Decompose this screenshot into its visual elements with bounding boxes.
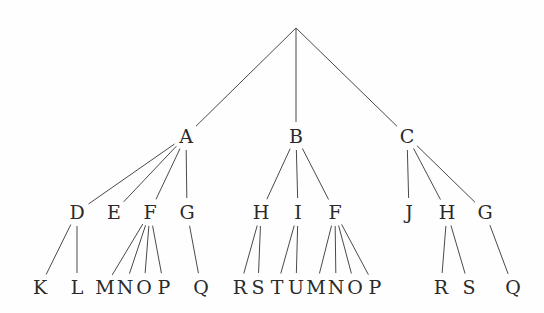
tree-node-q: Q	[193, 278, 209, 297]
tree-node-u: U	[288, 278, 304, 297]
tree-edge	[145, 226, 149, 273]
tree-node-o: O	[347, 278, 363, 297]
tree-node-j: J	[405, 203, 413, 222]
tree-node-r: R	[233, 278, 247, 297]
tree-edge	[296, 226, 297, 273]
tree-edge	[296, 28, 397, 126]
tree-edge	[339, 226, 352, 274]
tree-node-q: Q	[505, 278, 521, 297]
tree-edge	[335, 226, 336, 273]
tree-edge	[296, 150, 297, 198]
tree-edges	[0, 0, 544, 313]
tree-edge	[267, 149, 290, 200]
tree-edge	[417, 146, 475, 202]
tree-node-g: G	[179, 203, 194, 222]
tree-node-c: C	[400, 127, 415, 146]
tree-edge	[196, 28, 296, 126]
tree-node-p: P	[369, 278, 382, 297]
tree-node-o: O	[136, 278, 152, 297]
tree-edge	[46, 225, 71, 275]
tree-node-i: I	[294, 203, 302, 222]
tree-node-m: M	[95, 278, 114, 297]
tree-node-n: N	[117, 278, 134, 297]
tree-edge	[112, 224, 143, 275]
tree-node-r: R	[434, 278, 448, 297]
tree-diagram: ABCDEFGHIFJHGKLMNOPQRSTUMNOPRSQ	[0, 0, 544, 313]
tree-node-t: T	[271, 278, 284, 297]
tree-edge	[244, 225, 257, 273]
tree-edge	[342, 224, 369, 274]
tree-edge	[302, 148, 328, 199]
tree-edge	[407, 150, 408, 198]
tree-node-h: H	[253, 203, 270, 222]
tree-edge	[319, 226, 331, 274]
tree-node-n: N	[328, 278, 345, 297]
tree-edge	[186, 150, 187, 198]
tree-node-h: H	[439, 203, 456, 222]
tree-edge	[156, 149, 180, 200]
tree-edge	[451, 225, 465, 273]
tree-node-s: S	[462, 278, 475, 297]
tree-node-m: M	[306, 278, 325, 297]
tree-edge	[281, 225, 294, 273]
tree-node-f: F	[143, 203, 156, 222]
tree-node-l: L	[71, 278, 84, 297]
tree-node-k: K	[33, 278, 47, 297]
tree-node-s: S	[251, 278, 264, 297]
tree-node-a: A	[179, 127, 193, 146]
tree-node-g: G	[477, 203, 492, 222]
tree-node-e: E	[107, 203, 121, 222]
tree-node-d: D	[69, 203, 84, 222]
tree-node-b: B	[289, 127, 303, 146]
tree-edge	[153, 226, 162, 273]
tree-edge	[190, 226, 199, 273]
tree-node-f: F	[328, 203, 341, 222]
tree-edge	[259, 226, 261, 273]
tree-edge	[442, 226, 446, 273]
tree-edge	[490, 225, 508, 274]
tree-edge	[88, 144, 174, 204]
tree-node-p: P	[158, 278, 171, 297]
